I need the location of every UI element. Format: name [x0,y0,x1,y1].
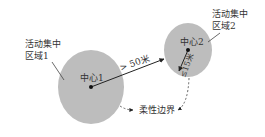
center2-dot [186,48,190,52]
distance-label: > 50米 [118,52,151,73]
activity-zones-diagram: 活动集中 区域1 活动集中 区域2 中心1 中心2 > 50米 ≤15米 柔性边… [0,0,265,137]
boundary-arrow-right [178,78,189,110]
zone2-leader-line [208,33,220,42]
zone2-label-line2: 区域2 [212,20,236,31]
center2-label: 中心2 [180,36,204,47]
boundary-label: 柔性边界 [139,104,175,115]
zone1-label-line2: 区域1 [25,50,49,61]
boundary-arrow-left [120,106,133,110]
center1-label: 中心1 [80,72,104,83]
center1-dot [89,85,93,89]
zone2-label-line1: 活动集中 [212,8,248,19]
zone1-label-line1: 活动集中 [25,38,61,49]
